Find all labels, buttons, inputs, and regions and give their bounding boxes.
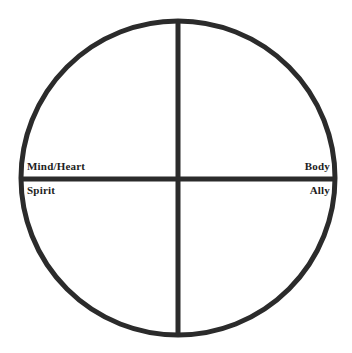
quadrant-label-spirit: Spirit bbox=[26, 184, 56, 196]
quadrant-label-body: Body bbox=[304, 160, 331, 172]
quadrant-label-ally: Ally bbox=[309, 184, 331, 196]
quadrant-circle-diagram bbox=[0, 0, 352, 353]
quadrant-label-mind-heart: Mind/Heart bbox=[26, 160, 86, 172]
diagram-canvas: Mind/Heart Body Spirit Ally bbox=[0, 0, 352, 353]
